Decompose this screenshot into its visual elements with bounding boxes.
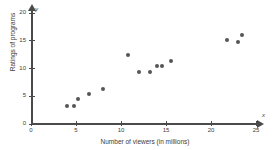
y-tick-mark xyxy=(29,96,35,97)
data-point xyxy=(155,64,159,68)
x-tick-label: 10 xyxy=(113,127,129,134)
y-tick-label: 0 xyxy=(12,120,26,127)
x-tick-label: 0 xyxy=(23,127,39,134)
data-point xyxy=(169,59,173,63)
x-axis-line xyxy=(31,123,259,125)
y-axis-title: Ratings of programs xyxy=(9,0,17,91)
data-point xyxy=(87,92,91,96)
y-tick-mark xyxy=(29,124,35,125)
data-point xyxy=(225,38,229,42)
y-tick-mark xyxy=(29,68,35,69)
x-tick-mark xyxy=(211,121,212,126)
x-tick-mark xyxy=(166,121,167,126)
data-point xyxy=(72,104,76,108)
data-point xyxy=(137,70,141,74)
data-point xyxy=(148,70,152,74)
y-axis-variable-label: y xyxy=(35,6,38,13)
data-point xyxy=(101,87,105,91)
x-tick-mark xyxy=(76,121,77,126)
data-point xyxy=(236,40,240,44)
data-point xyxy=(76,97,80,101)
data-point xyxy=(160,64,164,68)
data-point xyxy=(65,104,69,108)
x-tick-label: 20 xyxy=(203,127,219,134)
x-tick-mark xyxy=(121,121,122,126)
x-tick-mark xyxy=(256,121,257,126)
scatter-plot-figure: x y 0510152025 05101520 Number of viewer… xyxy=(0,0,275,150)
data-point xyxy=(240,33,244,37)
x-axis-title: Number of viewers (in millions) xyxy=(31,138,259,146)
y-tick-label: 5 xyxy=(12,92,26,99)
x-tick-label: 25 xyxy=(248,127,264,134)
y-tick-mark xyxy=(29,40,35,41)
y-axis-line xyxy=(31,10,33,124)
x-axis-variable-label: x xyxy=(262,112,265,119)
x-tick-label: 5 xyxy=(68,127,84,134)
y-tick-mark xyxy=(29,13,35,14)
plot-area: x y 0510152025 05101520 Number of viewer… xyxy=(0,0,275,150)
x-tick-label: 15 xyxy=(158,127,174,134)
data-point xyxy=(126,53,130,57)
